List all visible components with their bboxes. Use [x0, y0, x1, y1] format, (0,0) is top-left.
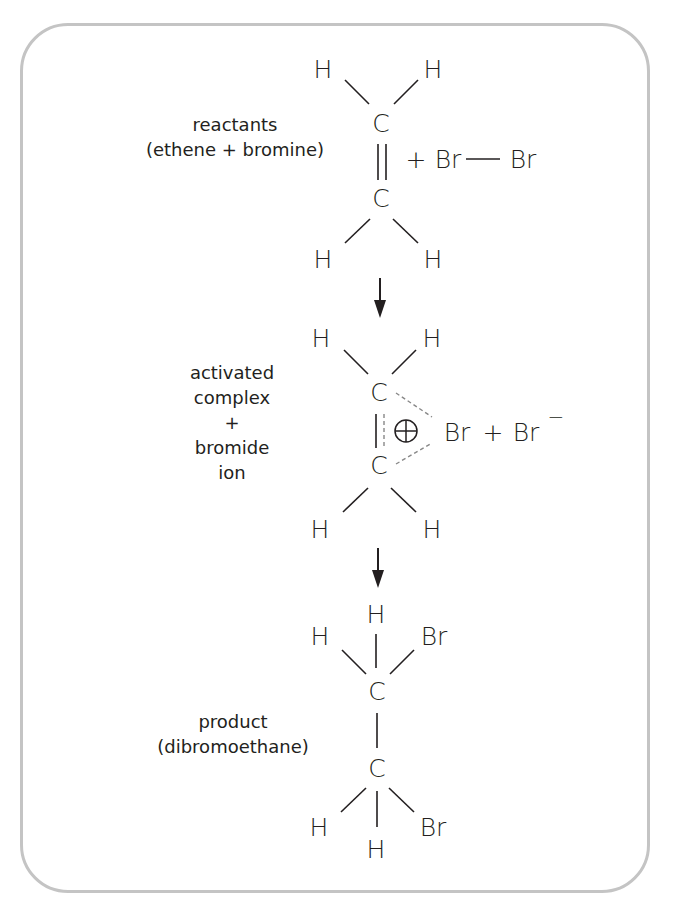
positive-charge-icon: [395, 420, 417, 442]
reactants-label-line2: (ethene + bromine): [146, 139, 324, 160]
complex-label-line2: complex: [194, 387, 271, 408]
negative-charge: −: [548, 405, 565, 429]
bond-single: [342, 650, 366, 674]
complex-label-line3: +: [224, 412, 239, 433]
atom-h: H: [314, 245, 333, 274]
atom-c: C: [370, 378, 387, 407]
atom-c: C: [372, 184, 389, 213]
complex-label-line4: bromide: [195, 437, 269, 458]
atom-br: Br: [420, 813, 447, 842]
atom-c: C: [370, 451, 387, 480]
atom-br: Br: [510, 145, 537, 174]
atom-br-ion: Br: [513, 418, 540, 447]
atom-c: C: [368, 677, 385, 706]
bond-single: [391, 488, 416, 512]
atom-br: Br: [421, 622, 448, 651]
bond-single: [344, 350, 368, 374]
reaction-arrow-down-icon: [372, 548, 384, 588]
bond-single: [345, 80, 369, 104]
atom-br: Br: [435, 145, 462, 174]
stage-product: product (dibromoethane) H H Br C C H Br …: [157, 600, 448, 864]
complex-label-line5: ion: [218, 462, 245, 483]
bond-single: [389, 788, 414, 812]
atom-c: C: [372, 109, 389, 138]
atom-br: Br: [444, 418, 471, 447]
bond-partial: [396, 393, 432, 417]
atom-h: H: [423, 515, 442, 544]
product-label-line2: (dibromoethane): [157, 736, 309, 757]
atom-h: H: [314, 55, 333, 84]
bond-single: [345, 219, 370, 243]
atom-h: H: [312, 324, 331, 353]
atom-h: H: [424, 245, 443, 274]
atom-h: H: [367, 835, 386, 864]
stage-activated-complex: activated complex + bromide ion H H C C …: [190, 324, 565, 544]
plus-sign: +: [406, 145, 427, 174]
reaction-arrow-down-icon: [374, 278, 386, 318]
bond-single: [390, 650, 414, 674]
bond-single: [392, 350, 416, 374]
plus-sign: +: [483, 418, 504, 447]
stage-reactants: reactants (ethene + bromine) H H C C H H…: [146, 55, 537, 274]
atom-h: H: [423, 324, 442, 353]
bond-partial: [396, 443, 432, 464]
bond-single: [394, 80, 418, 104]
atom-h: H: [367, 600, 386, 629]
bond-single: [343, 488, 368, 512]
atom-h: H: [311, 515, 330, 544]
bond-single: [341, 788, 366, 812]
reactants-label-line1: reactants: [193, 114, 278, 135]
reaction-diagram: reactants (ethene + bromine) H H C C H H…: [0, 0, 675, 906]
complex-label-line1: activated: [190, 362, 274, 383]
product-label-line1: product: [198, 711, 267, 732]
bond-single: [393, 219, 418, 243]
atom-c: C: [368, 754, 385, 783]
atom-h: H: [311, 622, 330, 651]
atom-h: H: [424, 55, 443, 84]
atom-h: H: [310, 813, 329, 842]
